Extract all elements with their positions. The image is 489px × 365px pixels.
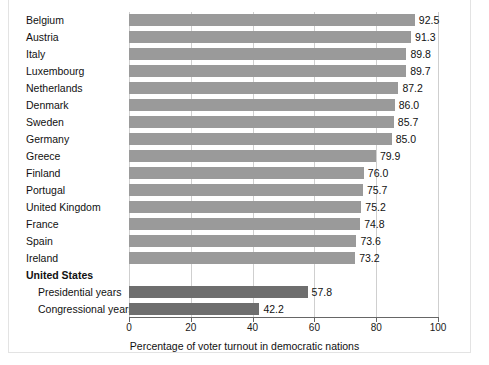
chart-row: Spain73.6 bbox=[0, 233, 489, 250]
category-label: Denmark bbox=[26, 99, 69, 112]
category-label: Finland bbox=[26, 167, 60, 180]
chart-row: Germany85.0 bbox=[0, 131, 489, 148]
bar bbox=[129, 31, 411, 43]
bar bbox=[129, 14, 415, 26]
bar bbox=[129, 235, 356, 247]
chart-row: Ireland73.2 bbox=[0, 250, 489, 267]
chart-row: Congressional years42.2 bbox=[0, 301, 489, 318]
bar-chart-figure: Belgium92.5Austria91.3Italy89.8Luxembour… bbox=[0, 0, 489, 365]
category-label: Ireland bbox=[26, 252, 58, 265]
bar-value-label: 73.2 bbox=[359, 252, 379, 264]
chart-row: France74.8 bbox=[0, 216, 489, 233]
category-label: Germany bbox=[26, 133, 69, 146]
category-label: Sweden bbox=[26, 116, 64, 129]
bar-value-label: 91.3 bbox=[415, 31, 435, 43]
chart-row: Presidential years57.8 bbox=[0, 284, 489, 301]
category-label: Austria bbox=[26, 31, 59, 44]
bar-value-label: 92.5 bbox=[419, 14, 439, 26]
bar-value-label: 89.8 bbox=[410, 48, 430, 60]
x-tick-label-100: 100 bbox=[430, 322, 447, 333]
x-tick-label-80: 80 bbox=[371, 322, 382, 333]
chart-row: Denmark86.0 bbox=[0, 97, 489, 114]
bar bbox=[129, 201, 361, 213]
category-label: Greece bbox=[26, 150, 60, 163]
category-label: Portugal bbox=[26, 184, 65, 197]
bar bbox=[129, 303, 259, 315]
bar-value-label: 75.2 bbox=[365, 201, 385, 213]
bar bbox=[129, 150, 376, 162]
chart-row: Austria91.3 bbox=[0, 29, 489, 46]
bar-value-label: 86.0 bbox=[399, 99, 419, 111]
bar-value-label: 73.6 bbox=[360, 235, 380, 247]
bar bbox=[129, 184, 363, 196]
category-label: Belgium bbox=[26, 14, 64, 27]
category-label: Luxembourg bbox=[26, 65, 84, 78]
figure-border-bottom bbox=[8, 352, 471, 353]
bar bbox=[129, 133, 392, 145]
bar-value-label: 57.8 bbox=[312, 286, 332, 298]
chart-row: United Kingdom75.2 bbox=[0, 199, 489, 216]
bar-value-label: 85.0 bbox=[396, 133, 416, 145]
chart-row: Sweden85.7 bbox=[0, 114, 489, 131]
x-tick-label-20: 20 bbox=[185, 322, 196, 333]
bar-value-label: 89.7 bbox=[410, 65, 430, 77]
bar bbox=[129, 116, 394, 128]
bar bbox=[129, 286, 308, 298]
bar bbox=[129, 252, 355, 264]
x-tick-label-60: 60 bbox=[309, 322, 320, 333]
bar bbox=[129, 167, 364, 179]
category-label: Netherlands bbox=[26, 82, 83, 95]
chart-row: United States bbox=[0, 267, 489, 284]
category-label: Presidential years bbox=[38, 286, 121, 299]
bar-value-label: 85.7 bbox=[398, 116, 418, 128]
category-label: France bbox=[26, 218, 59, 231]
chart-row: Greece79.9 bbox=[0, 148, 489, 165]
bar bbox=[129, 48, 406, 60]
x-axis-title: Percentage of voter turnout in democrati… bbox=[0, 340, 489, 352]
bar-value-label: 42.2 bbox=[263, 303, 283, 315]
bar bbox=[129, 82, 398, 94]
chart-row: Italy89.8 bbox=[0, 46, 489, 63]
chart-row: Portugal75.7 bbox=[0, 182, 489, 199]
bar-value-label: 75.7 bbox=[367, 184, 387, 196]
bar bbox=[129, 65, 406, 77]
x-axis-line bbox=[129, 317, 439, 318]
category-label: United States bbox=[26, 269, 93, 282]
bar-value-label: 76.0 bbox=[368, 167, 388, 179]
category-label: Congressional years bbox=[38, 303, 134, 316]
category-label: Spain bbox=[26, 235, 53, 248]
x-tick-label-0: 0 bbox=[126, 322, 132, 333]
chart-row: Netherlands87.2 bbox=[0, 80, 489, 97]
bar-value-label: 74.8 bbox=[364, 218, 384, 230]
bar bbox=[129, 218, 360, 230]
bar-value-label: 79.9 bbox=[380, 150, 400, 162]
category-label: Italy bbox=[26, 48, 45, 61]
chart-row: Belgium92.5 bbox=[0, 12, 489, 29]
x-tick-label-40: 40 bbox=[247, 322, 258, 333]
chart-row: Finland76.0 bbox=[0, 165, 489, 182]
category-label: United Kingdom bbox=[26, 201, 101, 214]
bar-value-label: 87.2 bbox=[402, 82, 422, 94]
bar bbox=[129, 99, 395, 111]
chart-row: Luxembourg89.7 bbox=[0, 63, 489, 80]
